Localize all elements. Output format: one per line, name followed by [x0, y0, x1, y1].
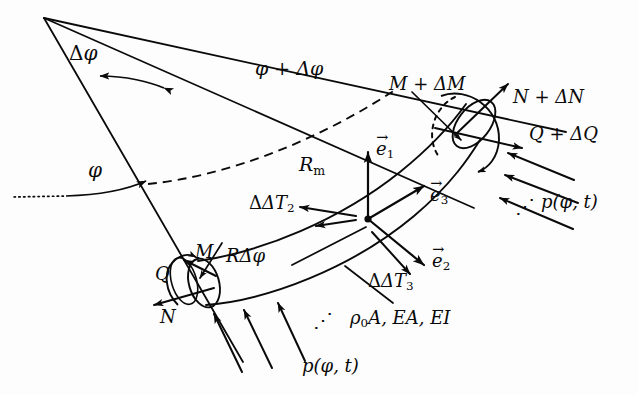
- label-delta-T3: ΔΔT3: [368, 272, 414, 293]
- label-phi: φ: [88, 160, 102, 180]
- label-delta-T2: ΔΔT2: [249, 194, 295, 215]
- label-phi-plus-delta-phi: φ + Δφ: [255, 59, 323, 78]
- label-delta-phi: Δφ: [69, 43, 97, 63]
- tube-top-edge: [198, 104, 466, 261]
- pressure-arrows-bottom: [214, 303, 305, 372]
- label-e3: e3: [430, 186, 448, 207]
- mid-surface-dashed-arc: [148, 88, 398, 184]
- tube-right-end-cap: [444, 92, 504, 156]
- label-e2: e2: [432, 252, 450, 273]
- angle-arcs: [100, 76, 164, 88]
- ray-lower-boundary: [44, 18, 243, 362]
- label-material-properties: ρ0A, EA, EI: [350, 309, 450, 330]
- tube-left-end-cap: [165, 254, 225, 311]
- phi-arc: [66, 181, 146, 196]
- Q-plus-dQ-arrow: [435, 128, 522, 148]
- delta-phi-arc: [100, 76, 164, 88]
- M-plus-dM-leader: [412, 92, 461, 140]
- label-R-m: Rm: [299, 155, 325, 177]
- basis-vectors: [368, 152, 424, 265]
- label-M: M: [195, 243, 213, 261]
- leader-lines: [200, 92, 461, 303]
- reference-node: [364, 215, 371, 222]
- R-delta-phi-leader: [292, 227, 366, 265]
- label-N-plus-delta-N: N + ΔN: [513, 88, 584, 106]
- label-N: N: [160, 308, 176, 326]
- ellipsis-bottom-icon: ⋰: [313, 310, 334, 330]
- label-Q-plus-delta-Q: Q + ΔQ: [529, 125, 598, 143]
- label-e1: e1: [376, 140, 394, 161]
- phi-reference-dotted-line: [14, 196, 66, 197]
- label-R-delta-phi: RΔφ: [226, 247, 265, 265]
- ray-middle: [44, 18, 474, 208]
- phi-arc-group: [66, 181, 146, 196]
- label-M-plus-delta-M: M + ΔM: [389, 75, 465, 93]
- label-pressure-bottom: p(φ, t): [302, 357, 359, 375]
- ellipsis-right-icon: ⋰: [515, 196, 536, 216]
- label-Q: Q: [155, 265, 170, 283]
- label-pressure-right: p(φ, t): [541, 193, 598, 211]
